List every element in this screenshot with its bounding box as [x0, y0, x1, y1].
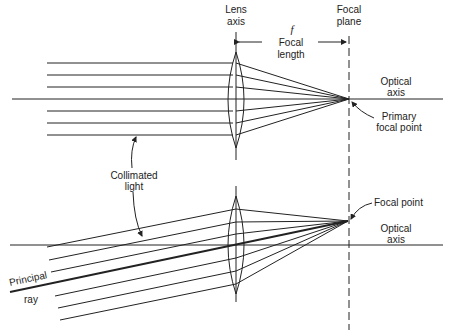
focal-plane-label-1: Focal [337, 4, 361, 15]
lens-axis-label-1: Lens [225, 4, 247, 15]
focal-length-label-2: length [277, 49, 304, 60]
collimated-light-label-1: Collimated [110, 170, 157, 181]
optical-axis-bottom-label-1: Optical [380, 223, 411, 234]
lens-axis-label-2: axis [227, 16, 245, 27]
lens-focus-diagram: Lens axis Focal plane f Focal length Opt… [0, 0, 451, 330]
primary-focal-point-label-2: focal point [376, 122, 422, 133]
optical-axis-top-label-1: Optical [380, 76, 411, 87]
primary-focal-point-arrow [352, 102, 374, 118]
optical-axis-bottom-label-2: axis [387, 234, 405, 245]
primary-focal-point-label-1: Primary [382, 111, 416, 122]
principal-ray [10, 221, 348, 292]
focal-point-arrow [351, 203, 372, 219]
focal-point-label: Focal point [374, 197, 423, 208]
focal-length-label-1: Focal [279, 37, 303, 48]
focal-plane-label-2: plane [337, 16, 362, 27]
f-symbol: f [290, 23, 295, 35]
collimated-light-label-2: light [125, 181, 144, 192]
optical-axis-top-label-2: axis [387, 87, 405, 98]
principal-ray-label-2: ray [24, 294, 38, 305]
collimated-arrow-up [132, 137, 137, 168]
bottom-converging-rays [236, 209, 348, 284]
